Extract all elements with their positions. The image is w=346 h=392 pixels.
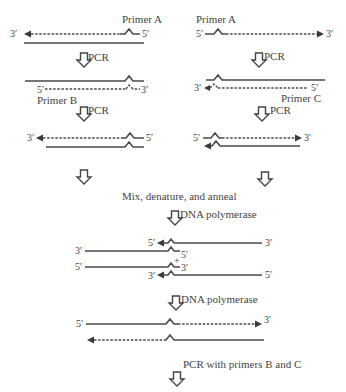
down-arrow-icon (258, 172, 272, 186)
end-label: 5′ (196, 28, 203, 39)
end-label: 3′ (194, 82, 201, 93)
double-strand-product (211, 141, 300, 146)
end-label: 3′ (148, 270, 155, 281)
pcr-label: PCR (264, 50, 285, 62)
primer-b-mismatch-icon (126, 85, 140, 89)
primer-c-label: Primer C (281, 92, 321, 104)
double-strand-product (46, 142, 144, 147)
end-label: 3′ (27, 132, 34, 143)
primer-a-label-right: Primer A (196, 13, 236, 25)
arrowhead-right-icon (317, 31, 324, 38)
end-label: 3′ (304, 132, 311, 143)
overlap-extension-pcr-diagram: Primer A 3′ 5′ PCR 5′ 3′ Primer B PCR 3′… (0, 0, 346, 392)
end-label: 5′ (142, 28, 149, 39)
primer-a-mismatch-icon (205, 29, 226, 34)
primer-a-label-left: Primer A (122, 13, 162, 25)
product-strand (206, 75, 325, 80)
arrowhead-right-icon (255, 321, 262, 328)
down-arrow-icon (77, 170, 91, 184)
plus-sign: + (174, 255, 180, 266)
primer-c-mismatch-icon (210, 84, 218, 88)
down-arrow-icon (255, 107, 269, 121)
mix-denature-anneal-label: Mix, denature, and anneal (122, 190, 237, 202)
final-product: 5′ 3′ (76, 314, 271, 344)
left-column: Primer A 3′ 5′ PCR 5′ 3′ Primer B PCR 3′… (10, 13, 162, 184)
end-label: 5′ (265, 269, 272, 280)
down-arrow-icon (170, 372, 184, 386)
end-label: 5′ (148, 237, 155, 248)
right-column: Primer A 5′ 3′ PCR 3′ 5′ Primer C PCR 5′… (193, 13, 333, 186)
arrowhead-left-icon (204, 85, 210, 91)
end-label: 5′ (76, 318, 83, 329)
arrowhead-left-icon (157, 240, 164, 247)
dna-polymerase-label: DNA polymerase (181, 293, 258, 305)
product-strand (25, 76, 144, 81)
end-label: 5′ (181, 249, 188, 260)
arrowhead-left-icon (157, 272, 164, 279)
end-label: 5′ (146, 132, 153, 143)
pcr-label: PCR (88, 104, 109, 116)
arrowhead-left-icon (87, 337, 94, 344)
arrowhead-right-icon (295, 135, 302, 142)
pcr-label: PCR (270, 104, 291, 116)
arrowhead-left-icon (36, 135, 43, 142)
end-label: 3′ (326, 28, 333, 39)
end-label: 5′ (75, 261, 82, 272)
end-label: 3′ (75, 245, 82, 256)
end-label: 3′ (265, 237, 272, 248)
end-label: 3′ (141, 84, 148, 95)
arrowhead-left-icon (204, 143, 211, 150)
arrowhead-left-icon (24, 31, 31, 38)
primer-b-label: Primer B (37, 94, 77, 106)
pcr-label: PCR (88, 51, 109, 63)
end-label: 3′ (181, 262, 188, 273)
primer-a-mismatch-icon (120, 29, 140, 34)
dna-polymerase-label: DNA polymerase (180, 208, 257, 220)
pcr-primers-b-c-label: PCR with primers B and C (183, 358, 301, 370)
end-label: 3′ (264, 314, 271, 325)
end-label: 5′ (193, 132, 200, 143)
end-label: 3′ (10, 28, 17, 39)
